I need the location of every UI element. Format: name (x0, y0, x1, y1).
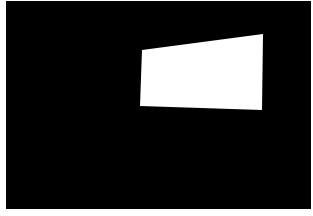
bright-panel (140, 34, 263, 110)
photo-scene (0, 0, 313, 216)
